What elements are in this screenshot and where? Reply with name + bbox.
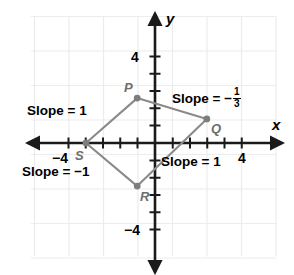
fraction-denominator: 3 bbox=[233, 99, 241, 110]
slope-label-sp: Slope = 1 bbox=[27, 104, 87, 118]
x-axis-label: x bbox=[271, 116, 281, 133]
slope-label-pq-prefix: Slope = − bbox=[172, 91, 232, 106]
vertex-s-point bbox=[83, 140, 90, 147]
vertex-p-point bbox=[134, 95, 141, 102]
vertex-label-r: R bbox=[140, 189, 150, 204]
grid-lines bbox=[31, 17, 276, 259]
x-tick-label-4: 4 bbox=[238, 150, 246, 166]
slope-label-qr: Slope = 1 bbox=[161, 155, 221, 169]
y-tick-label-neg4: −4 bbox=[124, 222, 140, 238]
slope-fraction-one-third: 13 bbox=[233, 87, 241, 109]
coordinate-plane-svg: y x −4 4 4 −4 P Q R S bbox=[0, 0, 294, 275]
vertex-label-s: S bbox=[75, 148, 84, 163]
slope-label-pq: Slope = −13 bbox=[172, 88, 241, 110]
vertex-label-q: Q bbox=[211, 121, 221, 136]
fraction-numerator: 1 bbox=[233, 87, 241, 99]
vertex-q-point bbox=[203, 116, 210, 123]
y-axis-label: y bbox=[165, 10, 175, 27]
y-tick-label-4: 4 bbox=[131, 49, 139, 65]
vertex-label-p: P bbox=[124, 80, 133, 95]
slope-label-rs: Slope = −1 bbox=[22, 165, 90, 179]
coordinate-plane-figure: y x −4 4 4 −4 P Q R S Slope = 1 Slope = … bbox=[0, 0, 294, 275]
